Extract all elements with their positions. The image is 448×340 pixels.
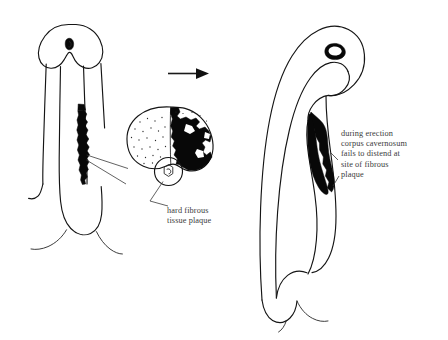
fibrous-plaque-flaccid-upper <box>78 104 86 111</box>
label-during-erection: during erection corpus cavernosum fails … <box>341 129 407 180</box>
fibrous-plaque-cross-section <box>170 107 212 170</box>
leader-plaque-to-inset <box>87 155 128 169</box>
septum-line <box>170 107 171 164</box>
cross-section-inset <box>127 107 213 206</box>
leader-plaque-to-inset-2 <box>86 160 126 184</box>
erect-base-left-fold <box>262 300 297 322</box>
flaccid-penis-figure <box>29 24 128 254</box>
shaft-left-outer-contour <box>43 64 46 184</box>
base-fold-left-b <box>96 232 122 254</box>
urethra-lumen-inner <box>167 169 171 174</box>
urethra-lumen <box>165 165 173 177</box>
erect-ventral-outer-contour <box>329 71 350 95</box>
base-fold-left-a <box>31 230 67 250</box>
diagram-canvas: hard fibrous tissue plaque during erecti… <box>0 0 448 340</box>
erect-dorsal-inner-contour <box>276 62 348 298</box>
erect-base-scrotum-a <box>297 301 328 321</box>
ventral-base-fold-left <box>29 184 43 199</box>
label-hard-fibrous-tissue-plaque: hard fibrous tissue plaque <box>167 206 211 226</box>
urethra-outline <box>155 158 183 186</box>
erect-base-right-fold <box>276 271 307 298</box>
shaft-right-outer-contour <box>101 64 105 129</box>
arrow-head <box>196 68 209 79</box>
progression-arrow <box>168 68 209 79</box>
fibrous-plaque-flaccid <box>77 110 90 185</box>
urethral-meatus-left <box>65 38 73 50</box>
